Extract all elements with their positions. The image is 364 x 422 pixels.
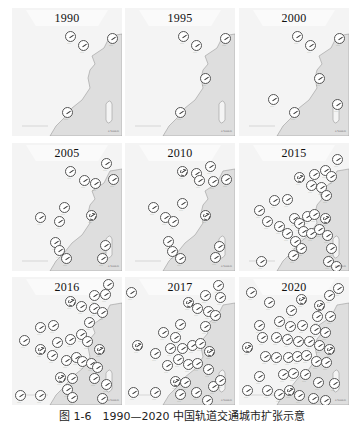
rail-network-circle-icon <box>192 303 203 314</box>
rail-network-circle-icon <box>321 190 332 201</box>
rail-network-circle-icon <box>94 344 105 355</box>
rail-network-circle-icon <box>108 174 119 185</box>
rail-network-circle-icon <box>79 175 90 186</box>
rail-network-circle-icon <box>332 99 343 110</box>
rail-network-circle-icon <box>271 352 282 363</box>
panel-year: 1990 <box>12 11 122 26</box>
rail-network-circle-icon <box>126 287 137 298</box>
city-label: —— <box>91 314 95 316</box>
city-label: —— <box>290 379 294 381</box>
city-label: —— <box>315 388 319 390</box>
city-label: —— <box>322 338 326 340</box>
rail-network-circle-icon <box>191 40 202 51</box>
rail-network-circle-icon <box>314 300 325 311</box>
city-label: —— <box>37 333 41 335</box>
rail-network-circle-icon <box>76 301 87 312</box>
rail-network-circle-icon <box>200 321 211 332</box>
city-label: —— <box>300 237 304 239</box>
city-label: —— <box>296 183 300 185</box>
rail-network-circle-icon <box>257 332 268 343</box>
city-label: —— <box>334 165 338 167</box>
rail-network-circle-icon <box>334 33 345 44</box>
city-label: —— <box>179 177 183 179</box>
city-label: —— <box>61 213 65 215</box>
city-label: —— <box>284 345 288 347</box>
city-label: —— <box>212 321 216 323</box>
rail-network-circle-icon <box>333 283 344 294</box>
panel-title: 2010 <box>125 143 235 165</box>
rail-network-circle-icon <box>158 327 169 338</box>
city-label: —— <box>63 264 67 266</box>
rail-network-circle-icon <box>293 336 304 347</box>
city-label: —— <box>193 51 197 53</box>
rail-network-circle-icon <box>320 327 331 338</box>
rail-network-circle-icon <box>180 377 191 388</box>
map-panel-2000: 2000 —————————————— 0 500km <box>239 8 349 136</box>
rail-network-circle-icon <box>92 362 103 373</box>
city-label: —— <box>177 400 181 402</box>
rail-network-circle-icon <box>285 321 296 332</box>
city-label: —— <box>244 396 248 398</box>
rail-network-circle-icon <box>35 390 46 401</box>
map-grid: 1990 ———————— 0 500km 1995 —————————— 0 … <box>0 0 364 410</box>
city-label: —— <box>291 118 295 120</box>
rail-network-circle-icon <box>86 210 97 221</box>
rail-network-circle-icon <box>301 350 312 361</box>
scale-label: 0 500km <box>335 130 346 133</box>
city-label: —— <box>109 44 113 46</box>
city-label: —— <box>298 305 302 307</box>
rail-network-circle-icon <box>320 213 331 224</box>
city-label: —— <box>276 327 280 329</box>
city-label: —— <box>273 343 277 345</box>
rail-network-circle-icon <box>170 376 181 387</box>
rail-network-circle-icon <box>82 336 93 347</box>
city-label: —— <box>81 186 85 188</box>
rail-network-circle-icon <box>294 172 305 183</box>
rail-network-circle-icon <box>202 395 213 406</box>
rail-network-circle-icon <box>242 385 253 396</box>
city-label: —— <box>271 206 275 208</box>
city-label: —— <box>316 235 320 237</box>
rail-network-circle-icon <box>78 40 89 51</box>
city-label: —— <box>244 353 248 355</box>
city-label: —— <box>152 359 156 361</box>
rail-network-circle-icon <box>89 290 100 301</box>
city-label: —— <box>130 398 134 400</box>
rail-network-circle-icon <box>274 316 285 327</box>
city-label: —— <box>88 221 92 223</box>
rail-network-circle-icon <box>65 31 76 42</box>
rail-network-circle-icon <box>324 344 335 355</box>
rail-network-circle-icon <box>205 161 216 172</box>
rail-network-circle-icon <box>178 31 189 42</box>
rail-network-circle-icon <box>215 375 226 386</box>
panel-year: 2000 <box>239 11 349 26</box>
city-label: —— <box>103 169 107 171</box>
rail-network-circle-icon <box>67 373 78 384</box>
rail-network-circle-icon <box>268 94 279 105</box>
rail-network-circle-icon <box>65 334 76 345</box>
rail-network-circle-icon <box>278 369 289 380</box>
rail-network-circle-icon <box>132 340 143 351</box>
rail-network-circle-icon <box>101 379 112 390</box>
city-label: —— <box>324 241 328 243</box>
city-label: —— <box>336 44 340 46</box>
city-label: —— <box>172 387 176 389</box>
rail-network-circle-icon <box>309 209 320 220</box>
city-label: —— <box>299 331 303 333</box>
rail-network-circle-icon <box>97 307 108 318</box>
city-label: —— <box>310 404 314 405</box>
rail-network-circle-icon <box>100 289 111 300</box>
rail-network-circle-icon <box>101 158 112 169</box>
city-label: —— <box>179 209 183 211</box>
rail-network-circle-icon <box>200 210 211 221</box>
scale-label: 0 500km <box>221 399 232 402</box>
rail-network-circle-icon <box>175 107 186 118</box>
city-label: —— <box>308 191 312 193</box>
rail-network-circle-icon <box>61 355 72 366</box>
rail-network-circle-icon <box>48 320 59 331</box>
city-label: —— <box>78 312 82 314</box>
rail-network-circle-icon <box>313 377 324 388</box>
rail-network-circle-icon <box>322 230 333 241</box>
city-label: —— <box>167 354 171 356</box>
city-label: —— <box>307 51 311 53</box>
